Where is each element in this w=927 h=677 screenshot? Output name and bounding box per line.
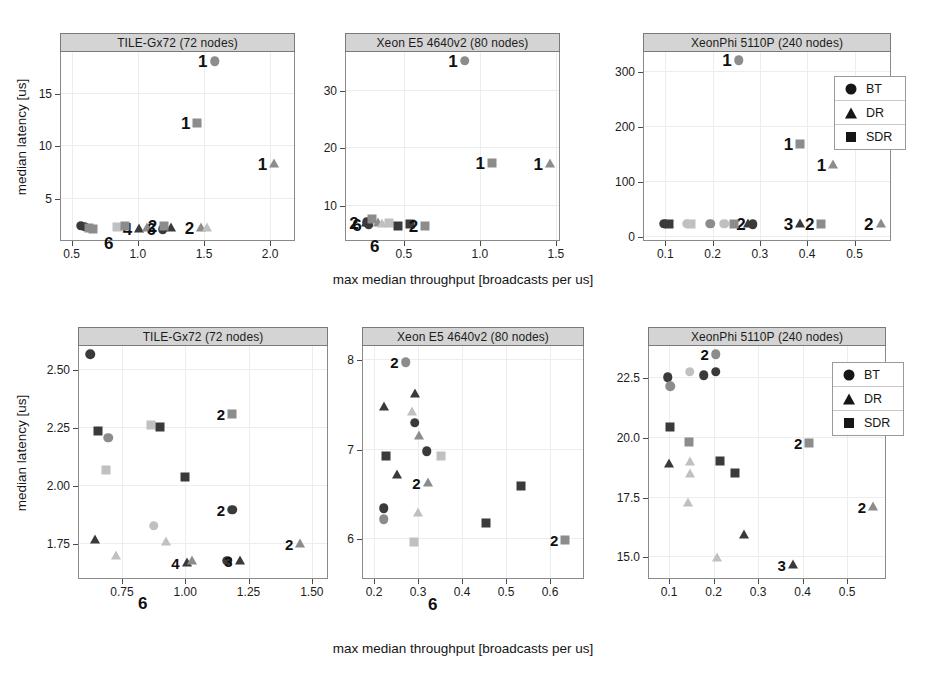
point-count-label: 2 (285, 537, 293, 552)
gridline-horizontal (644, 71, 890, 72)
point-count-label: 2 (412, 475, 420, 490)
data-point-bt (86, 349, 96, 359)
panel-title-top-xeon: Xeon E5 4640v2 (80 nodes) (345, 33, 560, 52)
tri-glyph (843, 393, 855, 404)
y-axis-title-bottom: median latency [us] (14, 395, 29, 511)
data-point-bt (410, 418, 420, 428)
x-axis-tick (72, 241, 73, 246)
x-axis-tick-label: 2.0 (262, 247, 279, 261)
x-axis-tick-label: 1.00 (174, 585, 197, 599)
data-point-dr (828, 160, 838, 169)
y-axis-tick-label: 6 (347, 532, 354, 546)
panel-bot-tile: TILE-Gx72 (72 nodes)24322 (78, 327, 328, 579)
y-axis-tick-label: 15 (39, 87, 52, 101)
panel-top-tile: TILE-Gx72 (72 nodes)1614212 (60, 33, 295, 241)
legend-label: SDR (864, 416, 890, 430)
data-point-dr (683, 497, 693, 506)
gridline-vertical (713, 52, 714, 240)
circle-icon (839, 365, 859, 385)
x-axis-tick (480, 241, 481, 246)
x-axis-tick (374, 579, 375, 584)
point-count-label: 2 (794, 435, 802, 450)
panel-title-bot-xeon: Xeon E5 4640v2 (80 nodes) (362, 327, 584, 346)
data-point-dr (876, 218, 886, 227)
x-axis-tick (506, 579, 507, 584)
gridline-horizontal (649, 556, 885, 557)
gridline-vertical (462, 346, 463, 578)
data-point-bt (720, 219, 730, 229)
data-point-sdr (228, 410, 237, 419)
x-axis-tick (185, 579, 186, 584)
tri-glyph (845, 107, 857, 118)
panel-title-top-phi: XeonPhi 5110P (240 nodes) (643, 33, 891, 52)
x-axis-tick-label: 0.2 (705, 585, 722, 599)
circle-icon (841, 79, 861, 99)
x-axis-tick (760, 241, 761, 246)
gridline-horizontal (61, 93, 294, 94)
x-axis-title-bottom: max median throughput [broadcasts per us… (333, 641, 593, 656)
legend-label: BT (864, 368, 880, 382)
panel-top-xeon: Xeon E5 4640v2 (80 nodes)161212 (345, 33, 560, 241)
legend-item-sdr: SDR (833, 411, 903, 435)
data-point-dr (187, 556, 197, 565)
data-point-sdr (730, 468, 739, 477)
x-axis-tick (713, 241, 714, 246)
data-point-sdr (367, 215, 376, 224)
data-point-bt (685, 367, 695, 377)
point-count-label: 3 (777, 557, 785, 572)
data-point-dr (111, 550, 121, 559)
y-axis-tick-label: 7 (347, 443, 354, 457)
gridline-vertical (374, 346, 375, 578)
x-axis-tick-label: 1.25 (237, 585, 260, 599)
x-axis-tick-label: 1.5 (548, 247, 565, 261)
multi-panel-scatter-figure: 0.51.01.52.051015TILE-Gx72 (72 nodes)161… (0, 0, 927, 677)
panel-title-top-tile: TILE-Gx72 (72 nodes) (60, 33, 295, 52)
gridline-vertical (760, 52, 761, 240)
data-point-bt (711, 367, 721, 377)
x-axis-tick (807, 241, 808, 246)
data-point-sdr (382, 451, 391, 460)
panel-bot-xeon: Xeon E5 4640v2 (80 nodes)222 (362, 327, 584, 579)
data-point-sdr (393, 221, 402, 230)
tri-icon (839, 389, 859, 409)
y-axis-title-top: median latency [us] (14, 79, 29, 195)
point-count-label: 2 (148, 218, 157, 235)
x-axis-tick-label: 1.50 (300, 585, 323, 599)
data-point-dr (295, 539, 305, 548)
plot-area-top-xeon: 161212 (345, 52, 560, 241)
data-point-sdr (516, 482, 525, 491)
data-point-dr (788, 559, 798, 568)
point-count-label: 2 (864, 215, 873, 232)
data-point-dr (868, 502, 878, 511)
x-axis-tick-label: 0.1 (661, 585, 678, 599)
data-point-sdr (101, 466, 110, 475)
data-point-dr (664, 459, 674, 468)
cluster-count-label-6: 6 (138, 595, 147, 612)
point-count-label: 3 (224, 554, 232, 569)
data-point-bt (699, 371, 709, 381)
x-axis-tick (803, 579, 804, 584)
y-axis-tick-label: 17.5 (617, 491, 640, 505)
point-count-label: 1 (784, 135, 793, 152)
point-count-label: 2 (217, 502, 225, 517)
legend-item-bt: BT (833, 363, 903, 387)
gridline-vertical (418, 346, 419, 578)
data-point-bt (663, 372, 673, 382)
legend-label: DR (866, 106, 884, 120)
square-glyph (844, 418, 854, 428)
gridline-horizontal (644, 181, 890, 182)
data-point-sdr (384, 219, 393, 228)
plot-area-bot-xeon: 222 (362, 346, 584, 579)
x-axis-tick-label: 0.4 (794, 585, 811, 599)
x-axis-tick (204, 241, 205, 246)
data-point-sdr (93, 426, 102, 435)
plot-area-bot-tile: 24322 (78, 346, 328, 579)
gridline-vertical (807, 52, 808, 240)
legend-box: BTDRSDR (832, 362, 904, 436)
gridline-vertical (714, 346, 715, 578)
square-glyph (846, 132, 856, 142)
x-axis-tick-label: 0.5 (63, 247, 80, 261)
cluster-count-label-6: 6 (104, 235, 113, 252)
data-point-sdr (729, 219, 738, 228)
data-point-sdr (561, 535, 570, 544)
